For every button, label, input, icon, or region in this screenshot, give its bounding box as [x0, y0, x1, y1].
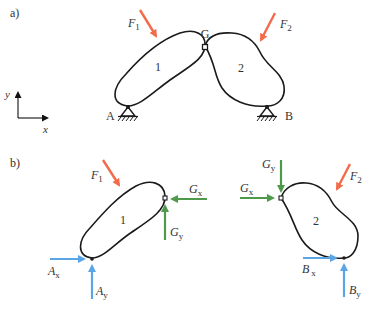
part-b-label: b) — [10, 156, 20, 170]
free-body-2: 2 F2 Gy Gx Bx By — [240, 157, 362, 299]
force-gy-left-label: Gy — [170, 225, 184, 241]
force-f1-label: F1 — [127, 16, 140, 32]
hinge-g — [203, 45, 208, 50]
hinge-g-left — [163, 196, 167, 200]
body-2 — [205, 33, 284, 106]
force-gx-left-label: Gx — [189, 182, 203, 198]
body-1-label: 1 — [155, 60, 161, 74]
part-b: b) 1 F1 Gx Gy Ax Ay 2 — [10, 156, 362, 300]
force-f2-arrow — [261, 13, 275, 40]
force-f2-fbd-label: F2 — [349, 169, 362, 185]
body-2-fbd-label: 2 — [313, 214, 319, 228]
x-axis-label: x — [42, 123, 48, 135]
free-body-1: 1 F1 Gx Gy Ax Ay — [47, 160, 207, 300]
force-by-label: By — [349, 283, 361, 299]
support-b-label: B — [285, 109, 293, 123]
force-f1-arrow — [140, 10, 156, 36]
pin-support-a — [118, 105, 138, 121]
force-bx-label: Bx — [302, 262, 316, 278]
force-f2-label: F2 — [279, 17, 292, 33]
pin-support-b — [257, 105, 277, 121]
body-2-fbd — [281, 183, 358, 258]
force-f1-fbd-label: F1 — [90, 168, 103, 184]
three-hinged-arch-diagram: a) 1 2 G F1 F2 A B — [0, 0, 377, 312]
force-gy-right-label: Gy — [262, 157, 276, 173]
part-a-label: a) — [10, 6, 19, 20]
support-a-label: A — [106, 109, 115, 123]
force-gx-right-label: Gx — [240, 181, 254, 197]
point-a — [90, 257, 94, 261]
part-a: a) 1 2 G F1 F2 A B — [4, 6, 293, 135]
force-ay-label: Ay — [95, 284, 108, 300]
hinge-g-right — [279, 196, 283, 200]
force-f2-fbd-arrow — [337, 164, 350, 189]
coordinate-axes: y x — [4, 88, 48, 135]
hinge-g-label: G — [201, 27, 210, 41]
force-f1-fbd-arrow — [103, 160, 119, 185]
body-1-fbd-label: 1 — [120, 213, 126, 227]
force-ax-label: Ax — [47, 264, 60, 280]
y-axis-label: y — [4, 88, 10, 100]
body-2-label: 2 — [238, 61, 244, 75]
point-b — [342, 256, 346, 260]
